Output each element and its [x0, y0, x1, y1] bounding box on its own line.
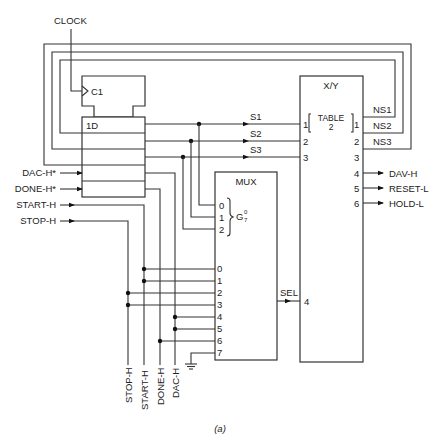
dav-h-label: DAV-H [389, 168, 417, 179]
start-bus [74, 205, 144, 365]
s3-label: S3 [250, 144, 262, 155]
mux-data-pin-2: 2 [217, 287, 222, 298]
xy-out-pin-6: 6 [354, 198, 359, 209]
mux-select-label: G [236, 211, 243, 222]
clock-block: C1 [82, 76, 145, 117]
input-label-stop-h: STOP-H [20, 215, 56, 226]
done-bus [145, 189, 160, 365]
mux-data-pin-1: 1 [217, 275, 222, 286]
figure-caption: (a) [214, 423, 226, 434]
mux-select-pin-0: 0 [219, 200, 224, 211]
xy-out-pin-3: 3 [354, 152, 359, 163]
mux-data-pin-0: 0 [217, 263, 222, 274]
reset-l-label: RESET-L [389, 183, 429, 194]
s2-label: S2 [250, 128, 262, 139]
register-label: 1D [86, 120, 98, 131]
bottom-label-dac-h: DAC-H [170, 368, 181, 398]
mux-data-pin-4: 4 [217, 311, 222, 322]
mux-select-pin-1: 1 [219, 212, 224, 223]
mux-data-pin-5: 5 [217, 323, 222, 334]
ns2-label: NS2 [373, 120, 391, 131]
stop-bus [74, 221, 128, 365]
xy-block: X/Y TABLE 2 1 2 3 4 1 2 3 4 5 6 [300, 76, 363, 362]
s1-label: S1 [250, 111, 262, 122]
register-block: 1D [82, 117, 145, 197]
xy-title: X/Y [323, 80, 339, 91]
sel-label: SEL [280, 287, 298, 298]
clock-label: CLOCK [54, 15, 87, 26]
xy-in-pin-4: 4 [304, 296, 309, 307]
mux-data-pin-6: 6 [217, 335, 222, 346]
xy-table-number: 2 [329, 122, 334, 132]
input-label-done-h-star: DONE-H* [15, 183, 56, 194]
bottom-label-stop-h: STOP-H [123, 367, 134, 403]
mux-title: MUX [235, 176, 257, 187]
xy-out-pin-1: 1 [354, 119, 359, 130]
ground-icon [185, 364, 197, 369]
hold-l-label: HOLD-L [389, 198, 424, 209]
bottom-label-done-h: DONE-H [155, 367, 166, 405]
input-label-start-h: START-H [16, 199, 56, 210]
xy-out-pin-4: 4 [354, 168, 359, 179]
clock-input-label: C1 [91, 86, 103, 97]
xy-in-pin-3: 3 [303, 152, 308, 163]
bottom-label-start-h: START-H [139, 370, 150, 410]
mux-select-pin-2: 2 [219, 224, 224, 235]
mux-data-pin-7: 7 [217, 347, 222, 358]
ns1-label: NS1 [373, 104, 391, 115]
ns3-label: NS3 [373, 136, 391, 147]
mux-block: MUX 0 1 2 G 0 7 0 1 2 3 4 5 6 7 [215, 172, 277, 360]
input-label-dac-h-star: DAC-H* [22, 167, 56, 178]
mux-data-pin-3: 3 [217, 299, 222, 310]
xy-out-pin-2: 2 [354, 136, 359, 147]
xy-in-pin-1: 1 [303, 119, 308, 130]
state-machine-diagram: CLOCK C1 1D DAC-H* DONE-H* START-H STOP-… [0, 0, 441, 447]
xy-in-pin-2: 2 [303, 136, 308, 147]
xy-out-pin-5: 5 [354, 183, 359, 194]
